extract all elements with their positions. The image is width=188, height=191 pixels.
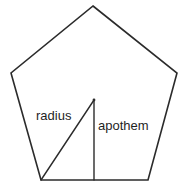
radius-label: radius [36,109,71,122]
apothem-label: apothem [98,119,149,132]
pentagon-diagram-svg [0,0,188,191]
geometry-figure: radius apothem [0,0,188,191]
center-point [93,99,96,102]
